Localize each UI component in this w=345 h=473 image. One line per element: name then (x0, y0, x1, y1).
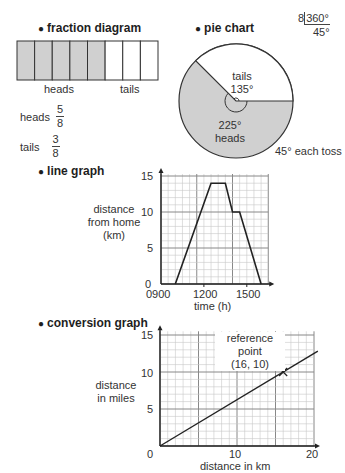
ylabel-line: distance (88, 379, 144, 392)
conversion-graph-heading: ●conversion graph (38, 316, 148, 330)
conv-x-tick-20: 20 (306, 448, 318, 460)
conv-y-tick-5: 5 (147, 403, 153, 415)
annotation-line: reference (215, 332, 285, 345)
line-y-tick-5: 5 (147, 242, 153, 254)
line-y-tick-15: 15 (141, 170, 153, 182)
line-xlabel: time (h) (194, 300, 231, 312)
conv-xlabel: distance in km (200, 460, 270, 472)
annotation-line: point (215, 345, 285, 358)
line-x-tick-1200: 1200 (193, 288, 217, 300)
ylabel-line: in miles (88, 392, 144, 405)
line-graph (0, 0, 345, 473)
conversion-ylabel: distance in miles (88, 379, 144, 405)
conv-y-tick-0: 0 (147, 448, 153, 460)
bullet-icon: ● (38, 318, 44, 329)
line-x-tick-1500: 1500 (236, 288, 260, 300)
conv-x-tick-10: 10 (229, 448, 241, 460)
reference-point-annotation: reference point (16, 10) (215, 332, 285, 371)
heading-text: conversion graph (47, 316, 148, 330)
conv-y-tick-10: 10 (141, 367, 153, 379)
conv-y-tick-15: 15 (141, 329, 153, 341)
line-y-tick-10: 10 (141, 206, 153, 218)
line-x-tick-0900: 0900 (146, 288, 170, 300)
annotation-line: (16, 10) (215, 358, 285, 371)
